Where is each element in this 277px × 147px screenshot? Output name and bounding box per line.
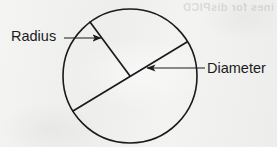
radius-label: Radius: [11, 29, 56, 44]
diameter-label: Diameter: [207, 61, 266, 76]
figure-canvas: ines for disPlCD Radius Diameter: [0, 0, 277, 147]
radius-line: [90, 22, 130, 76]
